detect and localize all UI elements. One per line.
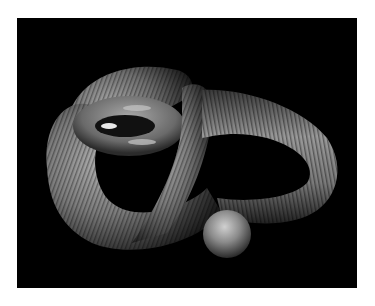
- tube-end-ball: [203, 210, 251, 258]
- render-frame: [17, 18, 357, 288]
- knot-render: [17, 18, 357, 288]
- torus-ring: [73, 96, 185, 156]
- tube-right: [202, 90, 337, 224]
